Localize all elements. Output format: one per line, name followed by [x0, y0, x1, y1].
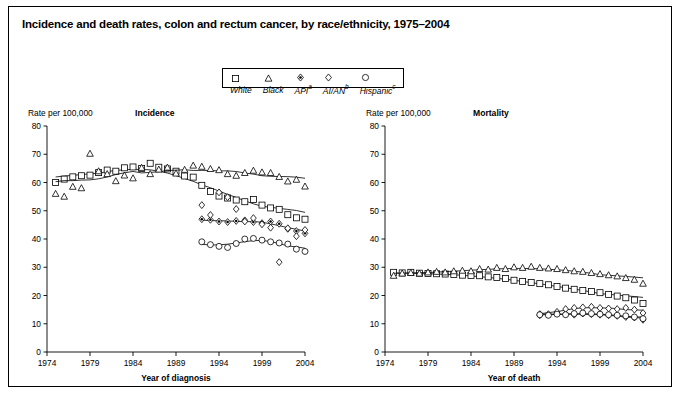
svg-text:0: 0 — [36, 347, 41, 357]
svg-text:1984: 1984 — [462, 358, 481, 368]
svg-text:50: 50 — [32, 206, 42, 216]
data-point — [70, 174, 76, 180]
data-point — [216, 243, 222, 249]
data-point — [293, 215, 299, 221]
svg-text:0: 0 — [374, 347, 379, 357]
data-point — [293, 246, 299, 252]
data-point — [225, 244, 231, 250]
data-point — [631, 314, 637, 320]
data-point — [78, 185, 85, 191]
mortality-chart-panel: Rate per 100,000Mortality010203040506070… — [352, 0, 667, 395]
data-point — [623, 304, 629, 311]
data-point — [130, 164, 136, 170]
data-point — [199, 202, 205, 209]
svg-text:70: 70 — [370, 149, 380, 159]
data-point — [233, 241, 239, 247]
data-point — [640, 280, 647, 286]
data-point — [588, 269, 595, 275]
y-axis-title: Rate per 100,000 — [366, 108, 431, 118]
data-point — [545, 282, 551, 288]
data-point — [468, 268, 475, 274]
data-point — [233, 206, 239, 213]
data-point — [276, 240, 282, 246]
data-point — [190, 174, 196, 180]
data-point — [294, 233, 300, 240]
data-point — [477, 273, 483, 279]
data-point — [147, 160, 153, 166]
svg-text:20: 20 — [32, 291, 42, 301]
svg-text:70: 70 — [32, 149, 42, 159]
data-point — [216, 167, 223, 173]
data-point — [606, 291, 612, 297]
data-point — [276, 259, 282, 266]
data-point — [571, 286, 577, 292]
svg-text:1989: 1989 — [167, 358, 186, 368]
data-point — [597, 311, 603, 317]
data-point — [207, 242, 213, 248]
data-point — [259, 202, 265, 208]
data-point — [589, 303, 595, 310]
svg-text:1999: 1999 — [591, 358, 610, 368]
chart-svg: Rate per 100,000Incidence010203040506070… — [14, 0, 329, 395]
data-point — [502, 276, 508, 282]
svg-text:1979: 1979 — [419, 358, 438, 368]
panel-title: Mortality — [473, 108, 509, 118]
data-point — [614, 293, 620, 299]
data-point — [588, 311, 594, 317]
data-point — [494, 264, 501, 270]
x-axis-ticks: 1974197919841989199419992004 — [376, 352, 653, 368]
data-point — [208, 212, 214, 219]
data-point — [285, 225, 291, 232]
data-point — [182, 173, 188, 179]
data-point — [199, 216, 205, 223]
data-point — [130, 175, 137, 181]
data-point — [563, 312, 569, 318]
data-point — [302, 216, 308, 222]
data-point — [285, 241, 291, 247]
data-point — [545, 312, 551, 318]
data-point — [554, 311, 560, 317]
data-point — [580, 310, 586, 316]
data-point — [485, 274, 491, 280]
svg-text:1974: 1974 — [38, 358, 57, 368]
data-point — [302, 183, 309, 189]
data-point — [537, 312, 543, 318]
svg-text:50: 50 — [370, 206, 380, 216]
series-black — [390, 263, 646, 286]
data-point — [580, 287, 586, 293]
data-point — [631, 297, 637, 303]
data-point — [545, 265, 552, 271]
data-point — [571, 311, 577, 317]
svg-text:2004: 2004 — [634, 358, 653, 368]
svg-text:20: 20 — [370, 291, 380, 301]
data-point — [225, 219, 231, 226]
data-point — [268, 205, 274, 211]
data-point — [476, 265, 483, 271]
data-point — [181, 166, 188, 172]
svg-text:60: 60 — [370, 178, 380, 188]
data-point — [537, 264, 544, 270]
data-point — [121, 165, 127, 171]
chart-svg: Rate per 100,000Mortality010203040506070… — [352, 0, 667, 395]
data-point — [632, 306, 638, 313]
data-point — [61, 193, 68, 199]
legend-footnote-marker: b — [345, 83, 349, 90]
data-point — [606, 312, 612, 318]
data-point — [563, 285, 569, 291]
svg-text:60: 60 — [32, 178, 42, 188]
data-point — [78, 173, 84, 179]
y-axis-ticks: 01020304050607080 — [32, 121, 47, 357]
incidence-chart-panel: Rate per 100,000Incidence010203040506070… — [14, 0, 329, 395]
data-point — [268, 224, 274, 231]
svg-text:2004: 2004 — [296, 358, 315, 368]
svg-text:40: 40 — [370, 234, 380, 244]
data-point — [199, 163, 206, 169]
data-point — [268, 239, 274, 245]
svg-text:1994: 1994 — [548, 358, 567, 368]
data-point — [614, 312, 620, 318]
data-point — [233, 217, 239, 224]
data-point — [554, 283, 560, 289]
data-point — [614, 306, 620, 313]
svg-text:1999: 1999 — [253, 358, 272, 368]
y-axis-ticks: 01020304050607080 — [370, 121, 385, 357]
